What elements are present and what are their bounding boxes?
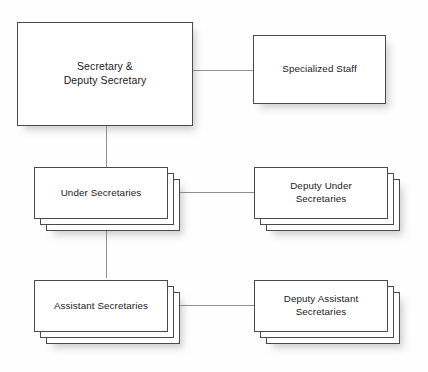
node-under-secretaries[interactable]: Under Secretaries: [34, 167, 168, 219]
node-assistant-secretaries-label: Assistant Secretaries: [54, 300, 148, 313]
node-deputy-under-secretaries[interactable]: Deputy Under Secretaries: [254, 167, 388, 219]
node-deputy-assistant-secretaries-label: Deputy Assistant Secretaries: [284, 293, 359, 319]
node-under-secretaries-label: Under Secretaries: [61, 187, 142, 200]
connector-secretary-to-under-secretaries: [106, 125, 107, 169]
node-stack-deputy-assistant-secretaries: Deputy Assistant Secretaries: [254, 280, 404, 350]
node-deputy-under-secretaries-label: Deputy Under Secretaries: [290, 180, 352, 206]
node-deputy-assistant-secretaries[interactable]: Deputy Assistant Secretaries: [254, 280, 388, 332]
connector-under-to-assistant-secretaries: [106, 231, 107, 278]
node-stack-under-secretaries: Under Secretaries: [34, 167, 184, 237]
node-stack-deputy-under-secretaries: Deputy Under Secretaries: [254, 167, 404, 237]
org-chart-diagram: Secretary & Deputy Secretary Specialized…: [0, 0, 428, 372]
node-specialized-staff[interactable]: Specialized Staff: [253, 35, 386, 104]
node-assistant-secretaries[interactable]: Assistant Secretaries: [34, 280, 168, 332]
node-secretary-and-deputy-secretary-label: Secretary & Deputy Secretary: [64, 60, 147, 88]
node-specialized-staff-label: Specialized Staff: [282, 63, 357, 76]
node-secretary-and-deputy-secretary[interactable]: Secretary & Deputy Secretary: [17, 22, 193, 126]
connector-secretary-to-specialized-staff: [192, 70, 253, 71]
node-stack-assistant-secretaries: Assistant Secretaries: [34, 280, 184, 350]
